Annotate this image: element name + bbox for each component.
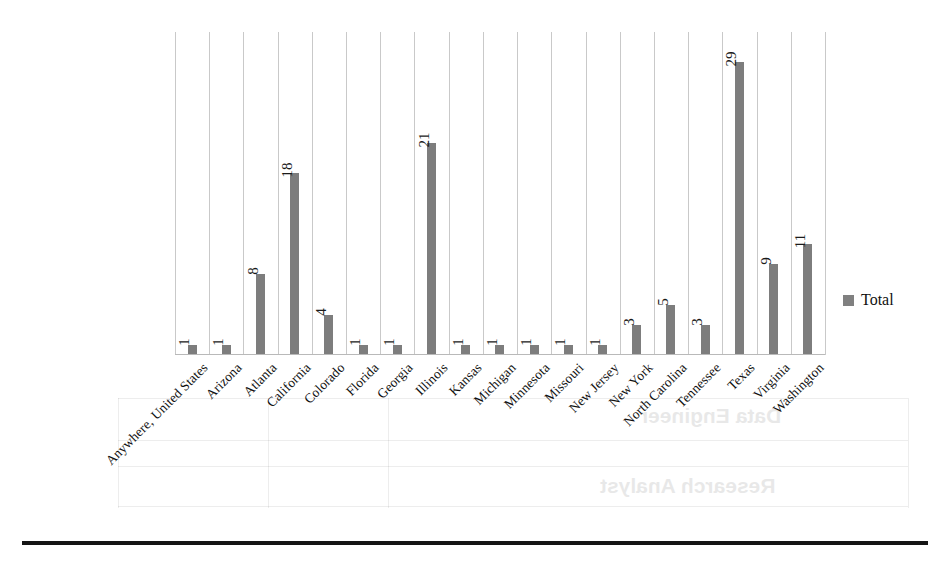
bar-value-label: 9: [759, 257, 774, 265]
legend-label-total: Total: [861, 291, 894, 309]
bar-value-label: 1: [553, 338, 568, 346]
bar-california: 18: [290, 173, 299, 355]
bar-value-label: 1: [348, 338, 363, 346]
bar-slot: 1: [585, 32, 619, 355]
bar-slot: 11: [791, 32, 825, 355]
category-label-anywhere-united-states: Anywhere, United States: [103, 360, 212, 469]
bar-washington: 11: [803, 244, 812, 355]
bar-value-label: 5: [656, 298, 671, 306]
bar-slot: 1: [449, 32, 483, 355]
footer-divider: [22, 541, 928, 545]
bar-slot: 1: [551, 32, 585, 355]
bar-value-label: 1: [177, 338, 192, 346]
bar-slot: 1: [175, 32, 209, 355]
category-label-arizona: Arizona: [203, 360, 246, 403]
bar-slot: 1: [209, 32, 243, 355]
bar-value-label: 4: [314, 308, 329, 316]
bar-value-label: 21: [417, 133, 432, 148]
bar-texas: 29: [735, 62, 744, 355]
bar-slot: 9: [756, 32, 790, 355]
bar-series-total: 11818411211111135329911: [175, 32, 825, 355]
bar-value-label: 3: [690, 318, 705, 326]
bar-value-label: 29: [724, 52, 739, 67]
bar-slot: 3: [620, 32, 654, 355]
bar-value-label: 18: [280, 163, 295, 178]
bar-slot: 8: [243, 32, 277, 355]
bar-value-label: 1: [382, 338, 397, 346]
bar-value-label: 1: [451, 338, 466, 346]
chart-legend: Total: [843, 291, 894, 309]
bar-value-label: 1: [485, 338, 500, 346]
bar-new-york: 3: [632, 325, 641, 355]
bar-value-label: 11: [793, 234, 808, 248]
bar-slot: 18: [278, 32, 312, 355]
bar-slot: 4: [312, 32, 346, 355]
bar-north-carolina: 5: [666, 305, 675, 355]
bar-slot: 3: [688, 32, 722, 355]
ghost-rule: [908, 398, 909, 508]
bar-virginia: 9: [769, 264, 778, 355]
bar-value-label: 1: [588, 338, 603, 346]
bar-slot: 1: [483, 32, 517, 355]
bar-slot: 29: [722, 32, 756, 355]
chart-page: Data Engineer Research Analyst 118184112…: [0, 0, 950, 564]
category-label-illinois: Illinois: [412, 360, 451, 399]
bar-value-label: 1: [211, 338, 226, 346]
legend-swatch-total: [843, 295, 854, 306]
bar-atlanta: 8: [256, 274, 265, 355]
bar-tennessee: 3: [701, 325, 710, 355]
bar-illinois: 21: [427, 143, 436, 355]
category-axis-labels: Anywhere, United StatesArizonaAtlantaCal…: [175, 358, 825, 538]
bar-value-label: 3: [622, 318, 637, 326]
bar-value-label: 1: [519, 338, 534, 346]
bar-slot: 21: [414, 32, 448, 355]
bar-value-label: 8: [246, 268, 261, 276]
category-axis-line: [175, 354, 825, 355]
bar-slot: 1: [346, 32, 380, 355]
chart-plot-area: 11818411211111135329911: [175, 32, 825, 355]
bar-slot: 5: [654, 32, 688, 355]
bar-colorado: 4: [324, 315, 333, 355]
category-label-georgia: Georgia: [374, 360, 416, 402]
bar-slot: 1: [380, 32, 414, 355]
gridline: [825, 32, 826, 355]
bar-slot: 1: [517, 32, 551, 355]
